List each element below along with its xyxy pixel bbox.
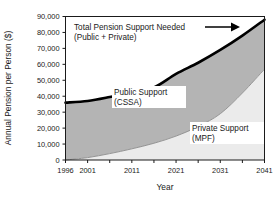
chart-figure: 010,00020,00030,00040,00050,00060,00070,… xyxy=(0,0,276,199)
y-tick-label: 80,000 xyxy=(37,28,60,37)
public-annotation-line1: Public Support xyxy=(114,88,168,97)
x-tick-label: 2021 xyxy=(168,166,184,175)
private-annotation-line1: Private Support xyxy=(192,124,249,133)
x-axis-title: Year xyxy=(157,182,174,192)
y-tick-label: 60,000 xyxy=(37,60,60,69)
x-tick-label: 1996 xyxy=(57,166,73,175)
y-tick-label: 0 xyxy=(55,156,59,165)
x-tick-label: 2001 xyxy=(79,166,95,175)
private-annotation-line2: (MPF) xyxy=(192,134,215,143)
y-tick-label: 90,000 xyxy=(37,12,60,21)
public-annotation-line2: (CSSA) xyxy=(114,98,142,107)
public-annotation: Public Support (CSSA) xyxy=(112,86,186,108)
total-annotation-line1: Total Pension Support Needed xyxy=(74,23,186,32)
y-tick-label: 10,000 xyxy=(37,140,60,149)
private-annotation: Private Support (MPF) xyxy=(190,122,264,144)
pension-area-chart: 010,00020,00030,00040,00050,00060,00070,… xyxy=(0,0,276,199)
y-tick-label: 40,000 xyxy=(37,92,60,101)
y-tick-label: 30,000 xyxy=(37,108,60,117)
x-tick-label: 2011 xyxy=(124,166,140,175)
x-tick-label: 2031 xyxy=(212,166,228,175)
y-tick-label: 70,000 xyxy=(37,44,60,53)
total-annotation-line2: (Public + Private) xyxy=(74,33,137,42)
y-tick-label: 50,000 xyxy=(37,76,60,85)
y-tick-label: 20,000 xyxy=(37,124,60,133)
y-axis-title: Annual Pension per Person ($) xyxy=(3,31,13,146)
x-tick-label: 2041 xyxy=(256,166,272,175)
